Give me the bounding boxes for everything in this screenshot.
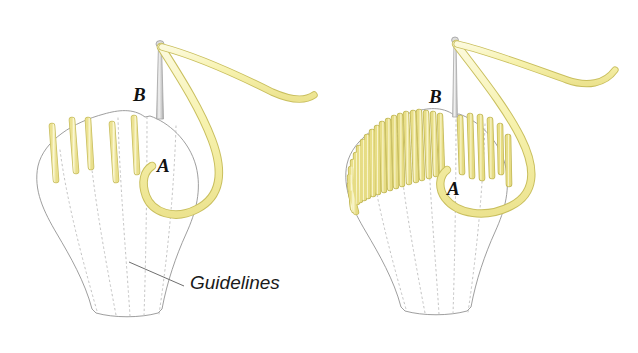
panel-step-1: B A Guidelines bbox=[0, 0, 319, 353]
panel-step-2-artwork bbox=[319, 0, 638, 353]
label-point-b: B bbox=[429, 86, 442, 108]
label-point-b: B bbox=[133, 84, 146, 106]
label-point-a: A bbox=[447, 178, 460, 200]
stitch-diagram-figure: B A Guidelines bbox=[0, 0, 638, 353]
label-point-a: A bbox=[157, 155, 170, 177]
panel-step-2: B A bbox=[319, 0, 638, 353]
label-guidelines: Guidelines bbox=[190, 272, 280, 294]
